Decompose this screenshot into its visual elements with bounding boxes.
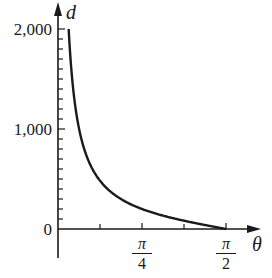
y-ticks: [58, 29, 65, 219]
x-axis-label: θ: [252, 234, 262, 254]
y-tick-label-0: 0: [0, 221, 52, 238]
x-tick-label-pi-over-2: π 2: [216, 236, 236, 272]
y-tick-label-2000: 2,000: [0, 21, 52, 38]
y-tick-label-1000: 1,000: [0, 121, 52, 138]
y-axis-arrow: [54, 2, 62, 16]
data-curve: [69, 29, 226, 229]
x-tick-label-pi-over-4: π 4: [132, 236, 152, 272]
x-axis-arrow: [247, 225, 261, 233]
y-axis-label: d: [66, 2, 76, 22]
